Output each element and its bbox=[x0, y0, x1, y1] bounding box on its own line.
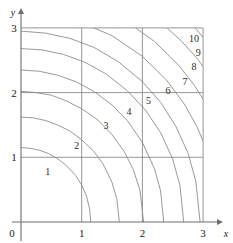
contour-label-6: 6 bbox=[165, 85, 170, 96]
y-axis-title: y bbox=[10, 7, 16, 18]
y-axis-arrow-icon bbox=[18, 8, 24, 14]
grid-line-group bbox=[21, 28, 203, 222]
contour-label-9: 9 bbox=[196, 47, 201, 58]
contour-curve-10 bbox=[118, 0, 203, 38]
contour-label-4: 4 bbox=[127, 106, 132, 117]
contour-curve-1 bbox=[21, 148, 91, 222]
contour-label-10: 10 bbox=[189, 33, 199, 44]
contour-label-2: 2 bbox=[74, 140, 79, 151]
contour-plot-figure: 0123123 12345678910 xy bbox=[0, 0, 233, 243]
y-tick-label-2: 2 bbox=[11, 87, 17, 99]
contour-label-8: 8 bbox=[191, 61, 196, 72]
x-axis-arrow-icon bbox=[217, 219, 223, 225]
contour-curve-9 bbox=[79, 0, 203, 67]
x-tick-label-3: 3 bbox=[200, 227, 206, 239]
contour-label-5: 5 bbox=[146, 95, 151, 106]
x-tick-label-1: 1 bbox=[79, 227, 85, 239]
contour-curve-5 bbox=[21, 49, 184, 222]
contour-curve-group bbox=[21, 0, 203, 222]
contour-label-1: 1 bbox=[45, 166, 50, 177]
x-axis-title: x bbox=[223, 228, 229, 239]
contour-curve-3 bbox=[21, 91, 144, 222]
contour-plot-canvas: 0123123 12345678910 xy bbox=[0, 0, 233, 243]
y-tick-label-3: 3 bbox=[11, 22, 17, 34]
contour-label-7: 7 bbox=[182, 76, 187, 87]
contour-label-group: 12345678910 bbox=[45, 33, 201, 177]
x-tick-label-2: 2 bbox=[140, 227, 146, 239]
contour-label-3: 3 bbox=[103, 120, 108, 131]
y-tick-label-1: 1 bbox=[11, 151, 17, 163]
x-tick-label-0: 0 bbox=[9, 227, 15, 239]
